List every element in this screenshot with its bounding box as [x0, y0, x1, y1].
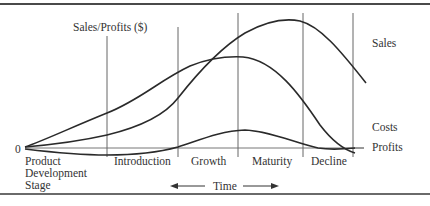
stage-label-growth: Growth: [191, 155, 226, 168]
origin-label: 0: [15, 143, 21, 156]
series-label-costs: Costs: [372, 121, 398, 134]
y-axis-label: Sales/Profits ($): [73, 21, 147, 34]
sales-curve: [25, 20, 366, 147]
stage-label-development-3: Stage: [25, 179, 51, 192]
series-label-profits: Profits: [372, 141, 403, 154]
stage-label-introduction: Introduction: [114, 155, 171, 168]
stage-label-maturity: Maturity: [252, 155, 292, 168]
x-axis-label: Time: [213, 180, 237, 193]
arrow-right-icon: [271, 183, 279, 189]
series-label-sales: Sales: [372, 37, 396, 50]
arrow-left-icon: [170, 183, 178, 189]
costs-curve: [25, 57, 355, 153]
stage-label-decline: Decline: [311, 155, 347, 168]
stage-dividers: [107, 13, 353, 157]
profits-curve: [25, 130, 355, 155]
